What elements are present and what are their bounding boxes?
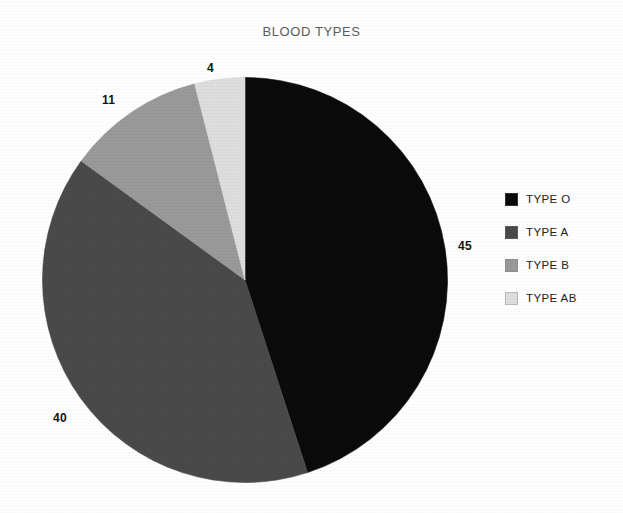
legend-item[interactable]: TYPE B — [505, 258, 620, 272]
pie-value-label-type-b: 11 — [102, 93, 115, 107]
pie-slice-group — [42, 78, 447, 483]
pie-value-label-type-ab: 4 — [207, 61, 214, 75]
chart-legend: TYPE OTYPE ATYPE BTYPE AB — [505, 192, 620, 305]
legend-swatch-type-b — [505, 259, 518, 272]
legend-item[interactable]: TYPE A — [505, 225, 620, 239]
pie-plot-area — [42, 77, 448, 483]
legend-item[interactable]: TYPE O — [505, 192, 620, 206]
pie-chart-figure: BLOOD TYPES 45 40 11 4 TYPE OTYPE ATYPE … — [0, 0, 623, 513]
chart-title: BLOOD TYPES — [0, 24, 623, 39]
legend-swatch-type-ab — [505, 292, 518, 305]
legend-item-label: TYPE O — [526, 193, 571, 206]
pie-value-label-type-a: 40 — [53, 411, 67, 425]
pie-svg — [42, 77, 448, 483]
legend-item-label: TYPE A — [526, 226, 569, 239]
legend-item-label: TYPE B — [526, 259, 569, 272]
pie-value-label-type-o: 45 — [458, 239, 472, 253]
legend-swatch-type-o — [505, 193, 518, 206]
legend-swatch-type-a — [505, 226, 518, 239]
legend-item-label: TYPE AB — [526, 292, 577, 305]
legend-item[interactable]: TYPE AB — [505, 291, 620, 305]
